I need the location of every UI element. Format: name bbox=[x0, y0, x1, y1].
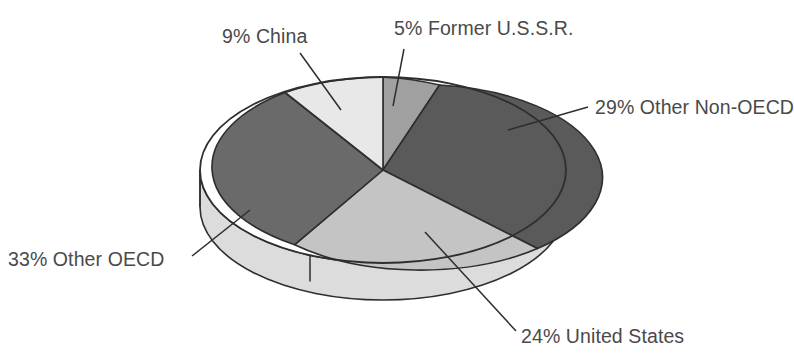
pie-label-other-non-oecd: 29% Other Non-OECD bbox=[595, 97, 794, 118]
pie-label-former-ussr: 5% Former U.S.S.R. bbox=[394, 18, 574, 39]
pie-label-china: 9% China bbox=[222, 26, 307, 47]
pie-label-united-states: 24% United States bbox=[521, 326, 684, 347]
pie-label-other-oecd: 33% Other OECD bbox=[8, 249, 164, 270]
